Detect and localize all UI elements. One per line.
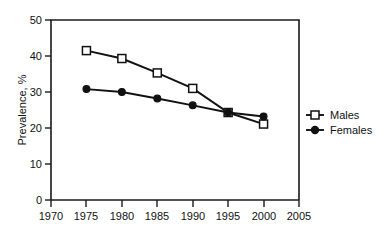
filled-circle-icon: [260, 113, 267, 120]
chart-figure: 0 10 20 30 40 50 Prevalence, % 1970 1975…: [0, 0, 392, 239]
x-tick-label-2005: 2005: [287, 210, 311, 222]
filled-circle-icon: [189, 102, 196, 109]
legend-entry-males[interactable]: Males: [306, 109, 360, 121]
y-tick-label-40: 40: [30, 50, 42, 62]
series-females: [83, 86, 267, 120]
x-tick-label-2000: 2000: [252, 210, 276, 222]
x-axis-tick-labels: 1970 1975 1980 1985 1990 1995 2000 2005: [39, 210, 311, 222]
filled-circle-icon: [311, 126, 318, 133]
y-axis-ticks: [45, 20, 51, 200]
y-tick-label-0: 0: [36, 194, 42, 206]
y-tick-label-20: 20: [30, 122, 42, 134]
legend-label-females: Females: [330, 124, 373, 136]
x-tick-label-1975: 1975: [74, 210, 98, 222]
legend-entry-females[interactable]: Females: [306, 124, 373, 136]
y-tick-label-50: 50: [30, 14, 42, 26]
y-tick-label-10: 10: [30, 158, 42, 170]
y-axis-title: Prevalence, %: [16, 74, 28, 145]
x-tick-label-1985: 1985: [145, 210, 169, 222]
line-chart: 0 10 20 30 40 50 Prevalence, % 1970 1975…: [0, 0, 392, 239]
x-tick-label-1970: 1970: [39, 210, 63, 222]
filled-circle-icon: [83, 86, 90, 93]
open-square-icon: [82, 47, 90, 55]
series-males: [82, 47, 267, 128]
y-tick-label-30: 30: [30, 86, 42, 98]
x-axis-ticks: [51, 200, 299, 207]
x-tick-label-1990: 1990: [181, 210, 205, 222]
x-tick-label-1980: 1980: [110, 210, 134, 222]
y-axis-tick-labels: 0 10 20 30 40 50: [30, 14, 42, 206]
open-square-icon: [153, 69, 161, 77]
filled-circle-icon: [154, 95, 161, 102]
open-square-icon: [311, 111, 319, 119]
filled-circle-icon: [225, 109, 232, 116]
filled-circle-icon: [118, 89, 125, 96]
data-series-layer: [82, 47, 267, 128]
series-line-females: [86, 89, 263, 116]
chart-legend: Males Females: [306, 109, 373, 136]
legend-label-males: Males: [330, 109, 360, 121]
open-square-icon: [118, 55, 126, 63]
open-square-icon: [189, 84, 197, 92]
open-square-icon: [260, 120, 268, 128]
x-tick-label-1995: 1995: [216, 210, 240, 222]
